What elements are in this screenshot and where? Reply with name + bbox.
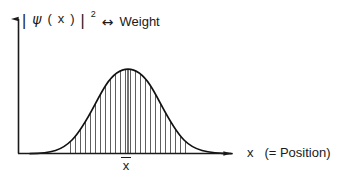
probability-density-figure: | ψ ( x ) | 2 ↔ Weight x (= Position) x: [0, 0, 339, 188]
double-headed-arrow-icon: ↔: [102, 15, 114, 29]
x-axis-meaning: (= Position): [264, 145, 330, 160]
legend-exponent: 2: [91, 10, 96, 19]
x-axis-label: x (= Position): [247, 146, 331, 159]
mean-value-label: x: [121, 157, 131, 172]
legend-weight-label: Weight: [120, 15, 160, 28]
mean-symbol: x: [121, 159, 131, 172]
legend-arg-close: ): [70, 12, 74, 25]
legend-arg-open: (: [47, 12, 51, 25]
modulus-bar-left-icon: |: [22, 13, 26, 29]
modulus-bar-right-icon: |: [81, 13, 85, 29]
x-axis-variable: x: [247, 145, 254, 160]
density-weight-legend: | ψ ( x ) | 2 ↔ Weight: [22, 12, 160, 28]
gaussian-curve: [30, 69, 232, 153]
legend-arg-variable: x: [58, 12, 65, 25]
psi-symbol: ψ: [32, 12, 41, 26]
